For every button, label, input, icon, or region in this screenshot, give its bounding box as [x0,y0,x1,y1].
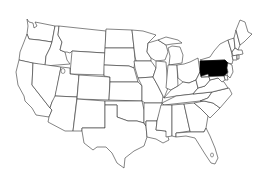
state-montana[interactable] [58,26,106,53]
state-kansas[interactable] [109,82,142,101]
state-florida[interactable] [176,128,218,164]
great-salt-lake [61,69,65,74]
state-colorado[interactable] [77,75,110,100]
state-north-dakota[interactable] [105,29,134,48]
state-rhode-island[interactable] [237,55,239,59]
state-new-mexico[interactable] [73,99,105,131]
state-connecticut[interactable] [232,55,237,60]
state-iowa[interactable] [134,61,156,78]
state-michigan[interactable] [168,46,183,65]
state-indiana[interactable] [166,65,178,90]
state-new-jersey[interactable] [227,63,233,78]
state-pennsylvania[interactable] [200,60,228,77]
lake-okeechobee [211,153,214,157]
us-map-svg [0,0,261,177]
state-wyoming[interactable] [70,51,105,75]
us-map: United States map with Pennsylvania high… [0,0,261,177]
state-washington[interactable] [27,19,55,42]
state-arizona[interactable] [48,96,77,131]
